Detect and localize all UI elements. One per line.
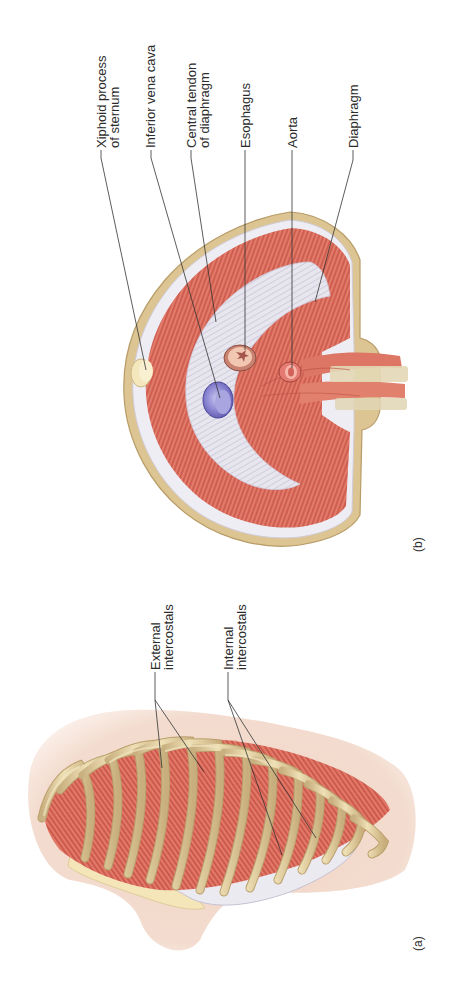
label-central-tendon-line2: of diaphragm <box>198 63 211 148</box>
diaphragm-illustration <box>124 212 408 546</box>
esophagus-opening <box>224 345 256 371</box>
label-inferior-vena-cava: Inferior vena cava <box>144 45 157 148</box>
rib-cage-illustration <box>28 710 416 951</box>
label-aorta-line1: Aorta <box>286 117 299 148</box>
anatomy-figure <box>0 0 451 988</box>
inferior-vena-cava-opening <box>203 382 233 418</box>
leader-line-xiphoid <box>101 150 146 370</box>
label-external-line2: intercostals <box>162 604 175 670</box>
panel-label-b: (b) <box>411 537 425 552</box>
label-aorta: Aorta <box>286 117 299 148</box>
label-diaphragm: Diaphragm <box>347 84 360 148</box>
label-internal-line2: intercostals <box>235 604 248 670</box>
label-ivc-line1: Inferior vena cava <box>144 45 157 148</box>
label-xiphoid-line2: of sternum <box>108 56 121 149</box>
aorta-opening <box>279 362 301 382</box>
label-esophagus-line1: Esophagus <box>239 83 252 148</box>
label-central-tendon: Central tendon of diaphragm <box>185 63 211 148</box>
label-internal-intercostals: Internal intercostals <box>222 604 248 670</box>
label-diaphragm-line1: Diaphragm <box>347 84 360 148</box>
panel-label-a: (a) <box>411 936 425 951</box>
label-xiphoid-process: Xiphoid process of sternum <box>95 56 121 149</box>
label-esophagus: Esophagus <box>239 83 252 148</box>
label-external-intercostals: External intercostals <box>149 604 175 670</box>
